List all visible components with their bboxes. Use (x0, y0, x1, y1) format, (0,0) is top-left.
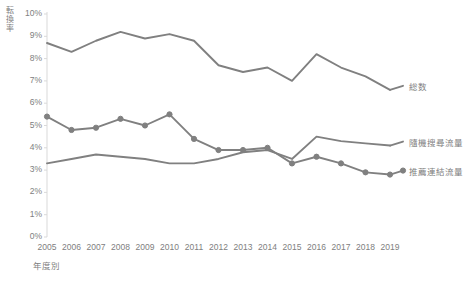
series-marker-2 (93, 125, 98, 130)
series-marker-2 (314, 154, 319, 159)
series-marker-2 (216, 147, 221, 152)
legend-item-label[interactable]: 推薦連結流量 (409, 165, 463, 177)
legend-connector-0 (390, 86, 403, 90)
legend-marker-2 (400, 168, 405, 173)
series-line-0 (47, 32, 390, 90)
series-marker-2 (363, 170, 368, 175)
series-marker-2 (265, 145, 270, 150)
legend-item-label[interactable]: 総数 (409, 80, 427, 92)
legend-connector-1 (390, 142, 403, 146)
series-line-2 (47, 114, 390, 174)
series-marker-2 (44, 114, 49, 119)
series-marker-2 (240, 147, 245, 152)
series-marker-2 (118, 116, 123, 121)
series-marker-2 (167, 112, 172, 117)
series-marker-2 (69, 127, 74, 132)
series-marker-2 (289, 161, 294, 166)
series-marker-2 (191, 136, 196, 141)
line-chart: 転換率 年度別 10%9%8%7%6%5%4%3%2%1%0% 20052006… (0, 0, 476, 285)
series-marker-2 (338, 161, 343, 166)
series-marker-2 (142, 123, 147, 128)
legend-item-label[interactable]: 隨機搜尋流量 (409, 136, 463, 148)
plot-area (0, 0, 476, 285)
